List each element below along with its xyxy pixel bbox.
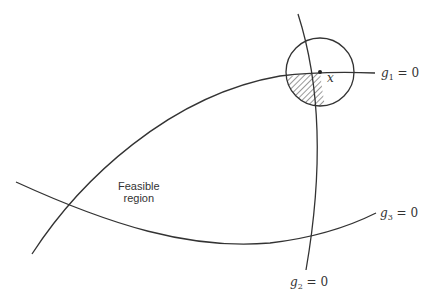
label-g2: g2 = 0 <box>290 275 328 291</box>
curve-g3 <box>16 182 376 244</box>
curve-g2 <box>298 14 317 270</box>
label-g3: g3 = 0 <box>380 206 418 222</box>
label-g1: g1 = 0 <box>381 66 419 82</box>
diagram-canvas: x g1 = 0 g2 = 0 g3 = 0 Feasible region <box>0 0 440 298</box>
hatched-feasible-sector <box>286 72 325 106</box>
point-x-marker <box>318 70 322 74</box>
diagram-svg <box>0 0 440 298</box>
feasible-region-label: Feasible region <box>118 180 160 204</box>
point-x-label: x <box>327 71 334 85</box>
